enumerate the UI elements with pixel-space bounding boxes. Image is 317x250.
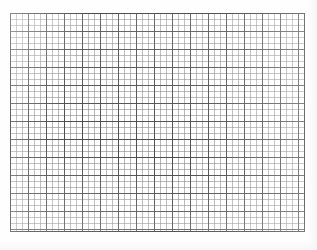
grid-lines [10,13,305,232]
scanned-page [0,0,317,250]
graph-paper-grid [10,13,305,232]
